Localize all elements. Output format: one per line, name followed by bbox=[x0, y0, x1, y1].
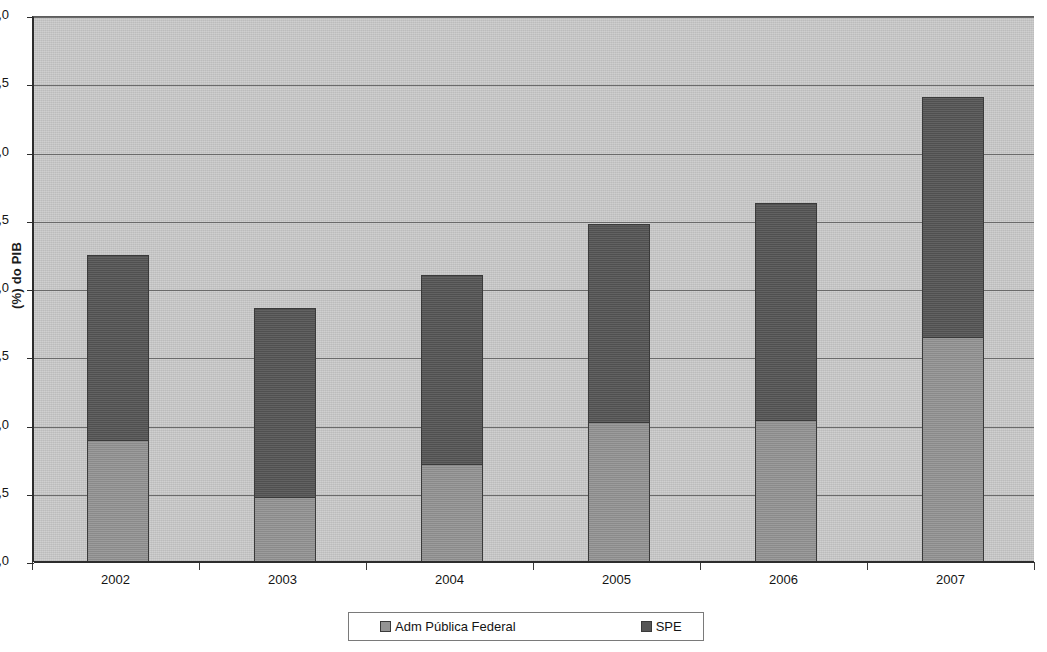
bar-stack bbox=[421, 275, 483, 562]
x-axis-tick-label: 2006 bbox=[739, 572, 829, 587]
gridline bbox=[34, 290, 1034, 291]
gridline bbox=[34, 495, 1034, 496]
plot-area bbox=[32, 16, 1034, 562]
x-axis-tick-mark bbox=[533, 562, 534, 570]
y-axis-title: (%) do PIB bbox=[9, 216, 24, 336]
bar-segment-adm-publica-federal bbox=[254, 498, 316, 562]
y-axis-tick-label: 1,0 bbox=[0, 417, 9, 432]
gridline bbox=[34, 222, 1034, 223]
x-axis-tick-label: 2005 bbox=[572, 572, 662, 587]
legend-swatch-spe bbox=[641, 621, 652, 632]
bar-stack bbox=[588, 224, 650, 563]
bar-segment-adm-publica-federal bbox=[922, 338, 984, 562]
y-axis-tick-label: 4,0 bbox=[0, 7, 9, 22]
chart-legend: Adm Pública Federal SPE bbox=[348, 612, 704, 641]
bar-segment-spe bbox=[87, 255, 149, 441]
stacked-bar-chart: (%) do PIB Adm Pública Federal SPE 0,00,… bbox=[0, 0, 1047, 652]
legend-item-spe: SPE bbox=[641, 619, 682, 634]
x-axis-tick-mark bbox=[199, 562, 200, 570]
y-axis-tick-mark bbox=[27, 85, 34, 86]
bar-segment-adm-publica-federal bbox=[755, 421, 817, 562]
y-axis-tick-mark bbox=[27, 495, 34, 496]
x-axis-baseline bbox=[34, 561, 1034, 563]
y-axis-tick-mark bbox=[27, 17, 34, 18]
bar-stack bbox=[755, 203, 817, 562]
bar-segment-adm-publica-federal bbox=[421, 465, 483, 562]
bar-stack bbox=[254, 308, 316, 562]
bar-segment-spe bbox=[922, 97, 984, 339]
y-axis-tick-mark bbox=[27, 358, 34, 359]
gridline bbox=[34, 154, 1034, 155]
bar-stack bbox=[87, 255, 149, 562]
legend-label-adm-publica-federal: Adm Pública Federal bbox=[395, 619, 516, 634]
y-axis-tick-label: 1,5 bbox=[0, 348, 9, 363]
y-axis-tick-mark bbox=[27, 290, 34, 291]
x-axis-tick-label: 2007 bbox=[906, 572, 996, 587]
gridline bbox=[34, 17, 1034, 18]
bar-segment-spe bbox=[421, 275, 483, 465]
legend-item-adm-publica-federal: Adm Pública Federal bbox=[380, 619, 516, 634]
legend-swatch-adm-publica-federal bbox=[380, 621, 391, 632]
x-axis-tick-label: 2003 bbox=[238, 572, 328, 587]
x-axis-tick-mark bbox=[1034, 562, 1035, 570]
bar-segment-spe bbox=[588, 224, 650, 423]
y-axis-tick-label: 3,5 bbox=[0, 75, 9, 90]
x-axis-tick-mark bbox=[366, 562, 367, 570]
bar-segment-spe bbox=[755, 203, 817, 421]
bar-segment-adm-publica-federal bbox=[588, 423, 650, 562]
y-axis-tick-mark bbox=[27, 563, 34, 564]
bar-stack bbox=[922, 97, 984, 562]
y-axis-tick-label: 3,0 bbox=[0, 144, 9, 159]
legend-label-spe: SPE bbox=[656, 619, 682, 634]
bar-segment-spe bbox=[254, 308, 316, 498]
y-axis-tick-label: 2,0 bbox=[0, 280, 9, 295]
bar-segment-adm-publica-federal bbox=[87, 441, 149, 562]
y-axis-tick-mark bbox=[27, 154, 34, 155]
y-axis-tick-label: 2,5 bbox=[0, 212, 9, 227]
y-axis-tick-mark bbox=[27, 427, 34, 428]
y-axis-tick-label: 0,5 bbox=[0, 485, 9, 500]
y-axis-tick-label: 0,0 bbox=[0, 553, 9, 568]
y-axis-tick-mark bbox=[27, 222, 34, 223]
gridline bbox=[34, 358, 1034, 359]
x-axis-tick-label: 2004 bbox=[405, 572, 495, 587]
x-axis-tick-mark bbox=[867, 562, 868, 570]
x-axis-tick-label: 2002 bbox=[71, 572, 161, 587]
x-axis-tick-mark bbox=[700, 562, 701, 570]
gridline bbox=[34, 427, 1034, 428]
gridline bbox=[34, 85, 1034, 86]
